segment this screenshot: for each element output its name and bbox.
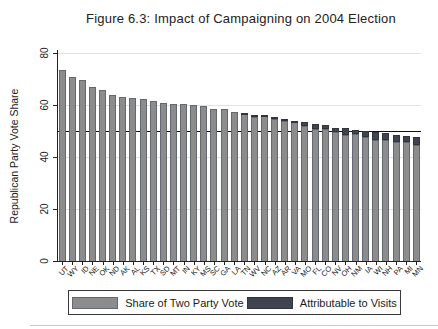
- y-tick-label-80: 80: [39, 47, 50, 58]
- legend: Share of Two Party Vote Attributable to …: [68, 290, 401, 315]
- bar-share-MI: [403, 142, 410, 261]
- bar-visits-AZ: [271, 117, 278, 119]
- bar-visits-NC: [261, 115, 268, 117]
- chart-title: Figure 6.3: Impact of Campaigning on 200…: [57, 11, 425, 26]
- bar-visits-WV: [251, 115, 258, 118]
- bar-visits-TN: [241, 113, 248, 115]
- x-tick-label-MN: MN: [410, 264, 425, 279]
- y-tick-60: [53, 105, 57, 106]
- bar-share-FL: [312, 129, 319, 261]
- y-axis-line: [57, 50, 58, 261]
- x-tick-label-MT: MT: [168, 264, 182, 278]
- bar-share-NM: [352, 134, 359, 261]
- y-tick-20: [53, 209, 57, 210]
- bar-share-NC: [261, 116, 268, 261]
- figure-6-3: Figure 6.3: Impact of Campaigning on 200…: [0, 0, 438, 329]
- bar-visits-OH: [342, 128, 349, 135]
- bar-share-IA: [362, 137, 369, 261]
- legend-item-share: Share of Two Party Vote: [72, 297, 243, 309]
- bar-share-WY: [69, 77, 76, 261]
- legend-item-visits: Attributable to Visits: [247, 297, 397, 309]
- bar-visits-PA: [393, 135, 400, 143]
- share-swatch-icon: [72, 297, 118, 309]
- bar-share-SC: [210, 109, 217, 261]
- bar-share-AR: [281, 121, 288, 261]
- bar-share-OH: [342, 135, 349, 261]
- bar-share-LA: [231, 112, 238, 262]
- bar-share-PA: [393, 142, 400, 261]
- bar-share-AK: [119, 97, 126, 261]
- visits-swatch-icon: [247, 297, 293, 309]
- bar-visits-WI: [372, 132, 379, 140]
- y-tick-0: [53, 261, 57, 262]
- bar-visits-MO: [301, 122, 308, 126]
- bar-share-TN: [241, 114, 248, 261]
- bar-visits-NM: [352, 130, 359, 134]
- legend-label-visits: Attributable to Visits: [300, 297, 397, 309]
- y-axis-label: Republican Party Vote Share: [8, 89, 20, 224]
- bar-share-AZ: [271, 119, 278, 261]
- y-tick-label-20: 20: [39, 203, 50, 214]
- x-tick-label-NM: NM: [349, 264, 364, 279]
- bar-share-MT: [170, 104, 177, 261]
- bar-visits-CO: [322, 125, 329, 129]
- bar-share-UT: [59, 70, 66, 261]
- bar-share-CO: [322, 129, 329, 261]
- bar-share-TX: [150, 101, 157, 261]
- bar-share-VA: [291, 122, 298, 261]
- x-tick-label-WY: WY: [66, 264, 81, 279]
- bar-share-NV: [332, 132, 339, 261]
- bar-share-MN: [413, 145, 420, 261]
- bar-share-WI: [372, 140, 379, 261]
- bar-visits-NV: [332, 128, 339, 132]
- bar-visits-VA: [291, 121, 298, 123]
- bar-share-AL: [129, 98, 136, 261]
- bar-visits-MI: [403, 136, 410, 143]
- bar-share-NE: [89, 87, 96, 261]
- legend-label-share: Share of Two Party Vote: [125, 297, 243, 309]
- bar-share-ID: [79, 80, 86, 261]
- page-edge-line: [30, 325, 438, 326]
- y-tick-label-40: 40: [39, 151, 50, 162]
- bar-share-OK: [99, 90, 106, 261]
- bar-visits-AR: [281, 119, 288, 122]
- y-tick-80: [53, 53, 57, 54]
- bar-share-SD: [160, 103, 167, 261]
- bar-share-ND: [109, 95, 116, 261]
- bar-visits-MN: [413, 137, 420, 145]
- y-tick-40: [53, 157, 57, 158]
- y-tick-label-60: 60: [39, 99, 50, 110]
- bar-share-GA: [221, 109, 228, 261]
- bar-visits-FL: [312, 124, 319, 129]
- bar-share-KY: [190, 105, 197, 261]
- bar-share-WV: [251, 117, 258, 261]
- bar-visits-NH: [382, 133, 389, 140]
- bar-share-MS: [200, 106, 207, 261]
- bar-share-IN: [180, 104, 187, 261]
- bar-share-MO: [301, 126, 308, 261]
- bar-visits-IA: [362, 131, 369, 138]
- bar-share-NH: [382, 140, 389, 261]
- bar-share-KS: [140, 99, 147, 261]
- gridline-80: [58, 53, 421, 54]
- y-tick-label-0: 0: [39, 258, 50, 264]
